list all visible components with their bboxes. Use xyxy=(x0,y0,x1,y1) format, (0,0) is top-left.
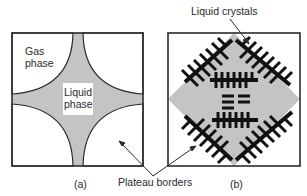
panel-a-caption: (a) xyxy=(74,178,87,190)
panel-b-caption: (b) xyxy=(230,178,243,190)
liquid-crystals-label: Liquid crystals xyxy=(191,5,258,17)
panel-b xyxy=(168,33,300,166)
foam-diagram xyxy=(0,0,307,196)
liquid-phase-label: Liquid phase xyxy=(64,86,93,110)
plateau-borders-label: Plateau borders xyxy=(118,176,192,188)
gas-phase-label: Gas phase xyxy=(25,45,54,69)
